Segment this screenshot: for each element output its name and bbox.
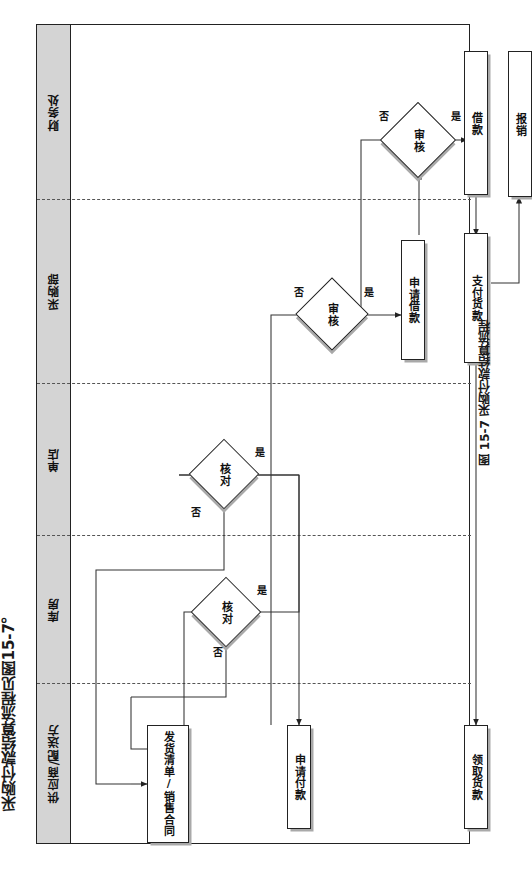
page-title: 采购付款结算流程见图15-7。 [2,608,17,811]
decision-label: 核对 [199,449,249,499]
edge-label-yes: 是 [255,585,265,595]
decision-label: 核对 [201,587,251,637]
lane-label-store: 单店 [37,383,71,535]
node-jiekuan[interactable]: 借款 [464,51,488,195]
lane-label-purchase: 采购部 [37,199,71,383]
flowchart-diagram: 财务处 采购部 单店 库房 供应商/配送方 [36,24,470,844]
node-baoxiao[interactable]: 报销 [508,51,532,197]
flow-canvas: 审核 否 是 借款 报销 审核 否 是 申请借款 支付货款 核对 [71,25,470,843]
node-apply-loan[interactable]: 申请借款 [401,240,425,360]
edge-label-yes: 是 [253,447,263,457]
node-shipping-list[interactable]: 发货清单/销售合同 [147,725,189,843]
decision-label: 审核 [391,113,445,167]
node-receive-payment[interactable]: 领取货款 [464,725,488,829]
edge-label-no: 否 [189,507,199,517]
edge-label-no: 否 [377,111,387,121]
decision-label: 审核 [306,288,358,340]
edge-label-yes: 是 [362,287,372,297]
lane-header-band: 财务处 采购部 单店 库房 供应商/配送方 [37,25,71,843]
edge-label-no: 否 [292,287,302,297]
edge-label-no: 否 [211,647,221,657]
edge-label-yes: 是 [449,111,459,121]
node-apply-payment[interactable]: 申请付款 [287,725,311,829]
figure-caption: 图 15-7 采购付款结算流程 [476,320,493,466]
decision-hedui-store[interactable]: 核对 [199,449,249,499]
decision-shenhe-finance[interactable]: 审核 [391,113,445,167]
lane-label-supplier: 供应商/配送方 [37,683,71,843]
decision-shenhe-purchase[interactable]: 审核 [306,288,358,340]
lane-label-warehouse: 库房 [37,535,71,683]
decision-hedui-warehouse[interactable]: 核对 [201,587,251,637]
lane-label-finance: 财务处 [37,25,71,199]
